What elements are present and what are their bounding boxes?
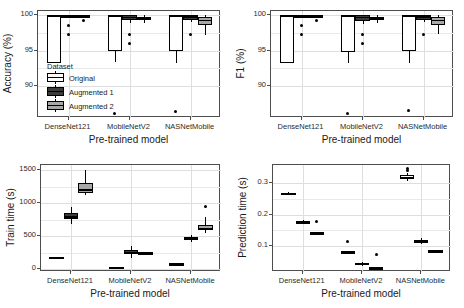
y-axis-title-prediction_time: Prediction time (s) [237, 164, 248, 271]
y-tickmark [269, 245, 272, 246]
plot-area-prediction_time [272, 164, 450, 271]
median-line [400, 177, 414, 179]
x-axis-title-prediction_time: Pre-trained model [272, 288, 450, 299]
median-line [296, 222, 310, 224]
outlier-point [406, 169, 409, 172]
gridline-x [362, 165, 363, 272]
median-line [310, 233, 324, 235]
median-line [414, 241, 428, 243]
y-tickmark [269, 214, 272, 215]
median-line [428, 251, 442, 253]
x-tickmark [361, 271, 362, 274]
median-line [281, 193, 295, 195]
gridline-x [303, 165, 304, 272]
x-tickmark [420, 271, 421, 274]
x-tickmark [302, 271, 303, 274]
outlier-point [375, 253, 378, 256]
gridline-x [421, 165, 422, 272]
median-line [355, 264, 369, 266]
y-tickmark [269, 182, 272, 183]
median-line [369, 268, 383, 270]
outlier-point [346, 240, 349, 243]
whisker-lower [407, 179, 408, 181]
boxplot-figure-grid: 9095100DenseNet121MobileNetV2NASNetMobil… [0, 0, 464, 308]
median-line [341, 252, 355, 254]
x-tick-label: NASNetMobile [385, 276, 455, 285]
chart-panel-prediction_time: 0.10.20.3DenseNet121MobileNetV2NASNetMob… [0, 0, 464, 308]
outlier-point [315, 220, 318, 223]
